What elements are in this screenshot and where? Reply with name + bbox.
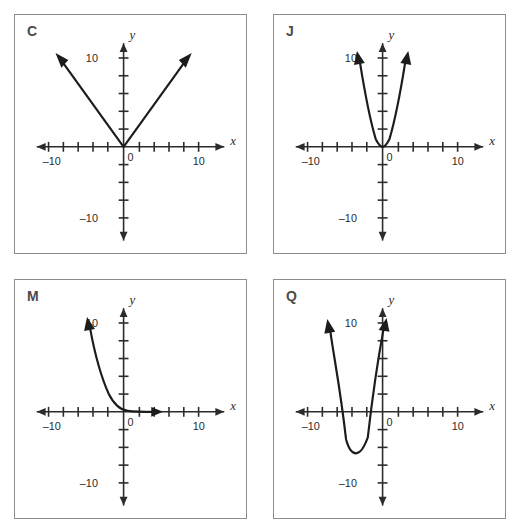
x-axis-name-c: x [229,134,236,148]
axes-j: –10 10 0 10 –10 x y [296,28,495,240]
graph-panel-m: M [14,279,247,519]
y-axis-name-q: y [387,293,395,307]
curve-path-q [330,329,383,453]
x-neg-label-q: –10 [302,420,320,432]
x-neg-label-j: –10 [302,155,320,167]
x-axis-name-m: x [229,399,236,413]
origin-label-q: 0 [387,416,393,428]
x-neg-label-m: –10 [43,420,61,432]
origin-label-j: 0 [387,151,393,163]
curve-right-arrow-j [400,51,411,65]
worksheet-graph-sheet: C [0,0,518,530]
axes-m: –10 10 0 10 –10 x y [37,293,236,505]
y-axis-down-arrow-j [379,232,387,241]
x-pos-label-m: 10 [193,420,205,432]
x-axis-right-arrow-q [474,408,483,416]
origin-label-c: 0 [128,151,134,163]
y-axis-down-arrow-c [120,232,128,241]
y-axis-down-arrow-m [120,497,128,506]
x-axis-name-j: x [488,134,495,148]
x-axis-left-arrow-m [37,408,46,416]
y-axis-name-m: y [128,293,136,307]
curve-right-arrow-q [379,318,390,332]
x-neg-label-c: –10 [43,155,61,167]
coordinate-plane-m: –10 10 0 10 –10 x y [15,280,246,518]
coordinate-plane-q: –10 10 0 10 –10 x y [274,280,505,518]
y-neg-label-c: –10 [80,212,98,224]
y-axis-up-arrow-m [120,308,128,317]
graph-panel-grid: C [0,0,518,530]
coordinate-plane-c: –10 10 0 10 –10 x y [15,15,246,253]
x-pos-label-j: 10 [452,155,464,167]
y-pos-label-c: 10 [86,52,98,64]
graph-panel-q: Q [273,279,506,519]
x-pos-label-c: 10 [193,155,205,167]
y-axis-up-arrow-j [379,43,387,52]
curve-quadratic-shifted-q [324,318,389,453]
x-axis-left-arrow-c [37,143,46,151]
axes-q: –10 10 0 10 –10 x y [296,293,495,505]
x-axis-left-arrow-j [296,143,305,151]
origin-label-m: 0 [128,416,134,428]
y-axis-name-j: y [387,28,395,42]
y-axis-down-arrow-q [379,497,387,506]
x-axis-right-arrow-c [215,143,224,151]
x-axis-left-arrow-q [296,408,305,416]
y-axis-name-c: y [128,28,136,42]
coordinate-plane-j: –10 10 0 10 –10 x y [274,15,505,253]
graph-panel-c: C [14,14,247,254]
y-axis-up-arrow-q [379,308,387,317]
y-axis-up-arrow-c [120,43,128,52]
x-axis-name-q: x [488,399,495,413]
curve-right-arrow-m [151,407,163,417]
graph-panel-j: J [273,14,506,254]
y-pos-label-q: 10 [345,317,357,329]
x-axis-right-arrow-j [474,143,483,151]
x-pos-label-q: 10 [452,420,464,432]
x-axis-right-arrow-m [215,408,224,416]
y-neg-label-m: –10 [80,477,98,489]
y-neg-label-j: –10 [339,212,357,224]
curve-left-arrow-q [324,319,335,334]
y-neg-label-q: –10 [339,477,357,489]
